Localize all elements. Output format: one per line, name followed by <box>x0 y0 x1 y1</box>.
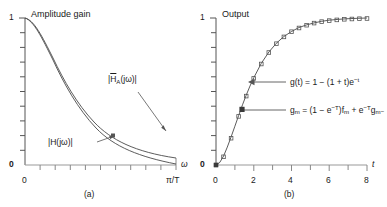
panel-a-curve-label-ha: |HA(jω)| <box>108 75 137 85</box>
panel-a-x-left-label: 0 <box>22 176 27 185</box>
panel-b-equation-discrete: gm = (1 − e−T)fm + e−Tgm− <box>290 105 384 115</box>
panel-a-title: Amplitude gain <box>31 10 91 19</box>
panel-b-x-tick-6: 6 <box>326 176 331 185</box>
panel-b-y-ticks <box>210 18 216 150</box>
panel-b-equation-continuous: g(t) = 1 − (1 + t)e−t <box>290 77 359 86</box>
eq-gm-exp1: −T <box>332 104 339 111</box>
panel-b-x-axis-symbol: t <box>372 160 374 169</box>
panel-b-caption: (b) <box>284 190 294 199</box>
panel-b-x-ticks <box>235 165 367 171</box>
eq-gm-body3: + e <box>349 105 363 115</box>
panel-b-y-top-label: 1 <box>200 13 205 22</box>
panel-a-y-ticks <box>19 18 25 150</box>
panel-a-y-top-label: 1 <box>9 13 14 22</box>
panel-a-caption: (a) <box>84 190 94 199</box>
panel-b-y-bottom-label: 0 <box>200 160 205 169</box>
panel-a-y-bottom-label: 0 <box>9 160 14 169</box>
panel-b-title: Output <box>222 10 249 19</box>
panel-b-curve-gt <box>216 18 367 165</box>
panel-b-x-tick-0: 0 <box>213 176 218 185</box>
eq-gm-body1: = (1 − e <box>300 105 332 115</box>
panel-b-marker-gm-highlight <box>239 107 244 112</box>
panel-b-sample-markers <box>214 17 369 167</box>
eq-gm-sub3: m− <box>376 108 385 115</box>
panel-a-x-right-label: π/T <box>166 176 179 185</box>
panel-a-amplitude-gain: Amplitude gain 1 0 0 π/T ω |HA(jω)| |H(j… <box>0 0 196 207</box>
panel-a-leader-ha <box>138 92 166 131</box>
eq-gm-exp2: −T <box>364 104 371 111</box>
panel-a-x-axis-symbol: ω <box>181 160 188 169</box>
panel-b-x-tick-2: 2 <box>251 176 256 185</box>
jomega-post: (jω)| <box>120 74 136 84</box>
panel-b-output: Output 1 0 0 2 4 6 8 t g(t) = 1 − (1 + t… <box>191 0 387 207</box>
panel-a-curve-label-h: |H(jω)| <box>48 138 73 147</box>
panel-b-origin-marker <box>214 163 218 167</box>
eq-gt-body: g(t) = 1 − (1 + t)e <box>290 77 354 87</box>
panel-b-x-tick-4: 4 <box>288 176 293 185</box>
eq-gt-exponent: −t <box>354 76 359 83</box>
panel-a-marker-h <box>111 134 115 138</box>
panel-b-x-tick-8: 8 <box>364 176 369 185</box>
panel-a-arrowhead-ha <box>161 125 166 131</box>
figure-container: Amplitude gain 1 0 0 π/T ω |HA(jω)| |H(j… <box>0 0 387 207</box>
